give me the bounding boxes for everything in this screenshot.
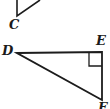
right-angle-marker-e xyxy=(89,53,102,66)
vertex-label-c: C xyxy=(9,18,19,31)
partial-triangle-top xyxy=(17,0,40,16)
geometry-figure-canvas: C D E F xyxy=(0,0,110,109)
vertex-label-f: F xyxy=(98,101,107,109)
vertex-label-e: E xyxy=(96,34,106,47)
vertex-label-d: D xyxy=(2,44,13,57)
